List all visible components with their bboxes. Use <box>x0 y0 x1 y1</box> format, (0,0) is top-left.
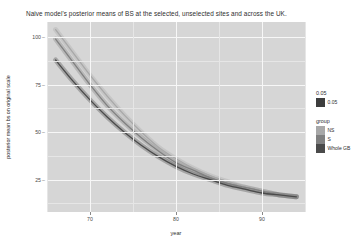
y-tick-label: 50– <box>35 129 45 135</box>
x-tick-mark <box>90 212 91 215</box>
x-tick-label: 80 <box>173 216 179 222</box>
x-tick-label: 90 <box>259 216 265 222</box>
group-legend: group NSSWhole GB <box>316 118 350 153</box>
grid-line-minor-v <box>47 22 48 212</box>
y-axis-label-text: posterior mean bs on original scale <box>5 75 11 159</box>
alpha-legend: 0.05 0.05 <box>316 90 337 107</box>
x-tick-mark <box>176 212 177 215</box>
y-tick-mark: – <box>41 177 45 183</box>
y-tick-label: 75– <box>35 82 45 88</box>
y-tick-mark: – <box>41 82 45 88</box>
legend-item-label: 0.05 <box>328 99 338 105</box>
plot-panel <box>47 22 305 212</box>
y-tick-mark: – <box>41 129 45 135</box>
y-tick-label: 100– <box>32 34 45 40</box>
legend-key-swatch <box>316 126 325 135</box>
y-tick-mark: – <box>41 34 45 40</box>
alpha-legend-title: 0.05 <box>316 90 337 96</box>
grid-line-minor-v <box>219 22 220 212</box>
alpha-legend-items: 0.05 <box>316 98 337 107</box>
legend-key-swatch <box>316 135 325 144</box>
x-axis-label: year <box>47 230 305 236</box>
legend-key-swatch <box>316 144 325 153</box>
clipped-window-header: — ———— —— — ——— <box>0 0 360 7</box>
grid-line-minor-v <box>133 22 134 212</box>
y-tick-text: 100 <box>32 34 41 40</box>
legend-item-label: S <box>328 136 331 142</box>
legend-item[interactable]: S <box>316 135 350 144</box>
grid-line-major-v <box>90 22 91 212</box>
group-legend-items: NSSWhole GB <box>316 126 350 153</box>
legend-item[interactable]: 0.05 <box>316 98 337 107</box>
grid-line-major-v <box>262 22 263 212</box>
x-tick-label: 70 <box>87 216 93 222</box>
legend-item[interactable]: NS <box>316 126 350 135</box>
clipped-header-text: — ———— —— — ——— <box>280 0 356 1</box>
group-legend-title: group <box>316 118 350 124</box>
chart-title: Naive model's posterior means of BS at t… <box>26 10 287 17</box>
legend-item-label: Whole GB <box>328 145 351 151</box>
x-tick-mark <box>262 212 263 215</box>
y-tick-label: 25– <box>35 177 45 183</box>
legend-item[interactable]: Whole GB <box>316 144 350 153</box>
legend-item-label: NS <box>328 127 335 133</box>
grid-line-major-v <box>176 22 177 212</box>
grid-line-minor-v <box>305 22 306 212</box>
legend-key-swatch <box>316 98 325 107</box>
